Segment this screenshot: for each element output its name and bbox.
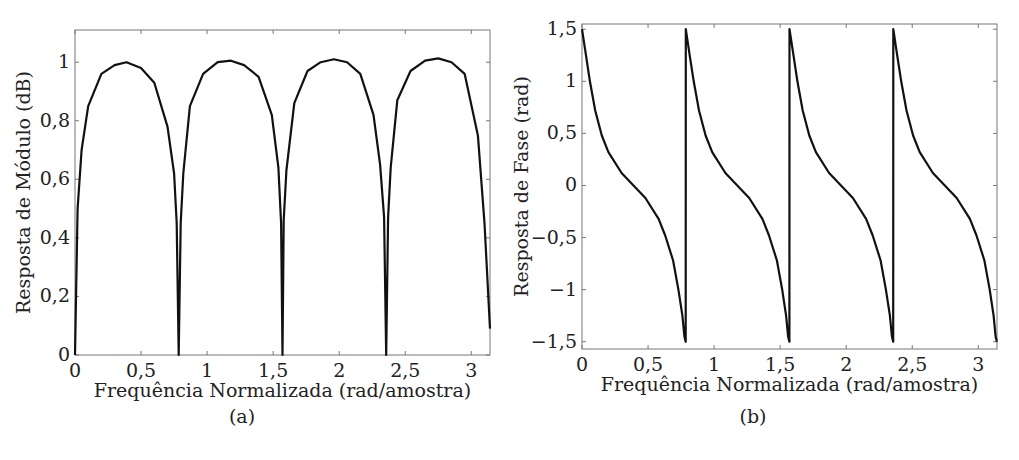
x-tick-label: 1 [201, 359, 213, 381]
x-tick-label: 1,5 [765, 353, 795, 375]
magnitude-curve [75, 58, 490, 355]
panel-a-magnitude-plot: 00,511,522,5300,20,40,60,81Frequência No… [12, 30, 490, 401]
x-tick-label: 1,5 [258, 359, 288, 381]
y-tick-label: 0,2 [40, 284, 70, 306]
x-axis-label: Frequência Normalizada (rad/amostra) [601, 373, 978, 395]
figure: 00,511,522,5300,20,40,60,81Frequência No… [0, 0, 1019, 460]
x-tick-label: 0 [69, 359, 81, 381]
y-tick-label: 0,8 [40, 109, 70, 131]
x-tick-label: 3 [465, 359, 477, 381]
y-axis-label: Resposta de Módulo (dB) [12, 71, 34, 314]
y-tick-label: 1 [58, 50, 70, 72]
y-tick-label: 0 [565, 173, 577, 195]
y-tick-label: −1 [549, 278, 577, 300]
clipped-caption-line [0, 452, 1019, 460]
y-tick-label: 0,6 [40, 167, 70, 189]
panel-b-label: (b) [723, 405, 783, 427]
x-tick-label: 1 [708, 353, 720, 375]
panel-a-label: (a) [212, 405, 272, 427]
y-axis-label: Resposta de Fase (rad) [510, 76, 532, 297]
x-tick-label: 2 [333, 359, 345, 381]
x-tick-label: 3 [972, 353, 984, 375]
figure-canvas: 00,511,522,5300,20,40,60,81Frequência No… [0, 0, 1019, 460]
x-tick-label: 2,5 [897, 353, 927, 375]
panel-b-phase-plot: 00,511,522,53−1,5−1−0,500,511,5Frequênci… [510, 17, 997, 395]
phase-curve [582, 29, 997, 342]
y-tick-label: −0,5 [531, 226, 577, 248]
x-tick-label: 0 [576, 353, 588, 375]
y-tick-label: −1,5 [531, 330, 577, 352]
x-tick-label: 0,5 [633, 353, 663, 375]
x-tick-label: 2 [840, 353, 852, 375]
x-axis-label: Frequência Normalizada (rad/amostra) [94, 379, 471, 401]
y-tick-label: 1,5 [547, 17, 577, 39]
y-tick-label: 0,4 [40, 226, 70, 248]
x-tick-label: 2,5 [390, 359, 420, 381]
y-tick-label: 0 [58, 343, 70, 365]
x-tick-label: 0,5 [126, 359, 156, 381]
y-tick-label: 1 [565, 69, 577, 91]
y-tick-label: 0,5 [547, 121, 577, 143]
